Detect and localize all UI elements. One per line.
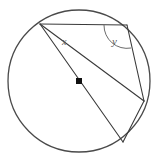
chord-ac-diagonal	[40, 24, 144, 101]
chord-ab-top	[40, 24, 127, 25]
chord-bc-right	[127, 25, 144, 101]
geometry-diagram: x y	[0, 0, 161, 161]
angle-label-x: x	[61, 36, 67, 47]
geometry-canvas: x y	[0, 0, 161, 161]
chord-cd-lower	[123, 101, 144, 142]
circle-center-marker	[76, 78, 82, 84]
angle-label-y: y	[111, 35, 117, 47]
